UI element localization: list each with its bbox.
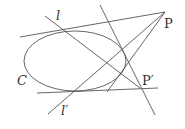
conic-c [24,31,126,91]
steep-line [100,5,155,115]
label-c: C [17,74,27,87]
label-l: l [56,9,60,22]
p-chord-line [107,12,165,92]
line-l [45,16,140,88]
line-l-prime [48,12,165,114]
label-p-prime: P′ [142,74,154,87]
label-p: P [164,17,173,30]
top-tangent-line [20,12,165,37]
label-l-prime: l′ [61,104,68,117]
diagram-canvas [0,0,185,129]
